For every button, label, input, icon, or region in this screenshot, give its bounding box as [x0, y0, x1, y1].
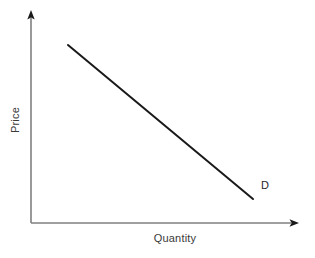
plot-area: [0, 0, 315, 258]
demand-curve-line: [68, 45, 253, 199]
y-axis-label: Price: [0, 105, 39, 135]
demand-curve-figure: Price Quantity D: [0, 0, 315, 258]
demand-curve-label: D: [261, 179, 269, 191]
x-axis-label: Quantity: [120, 232, 230, 244]
